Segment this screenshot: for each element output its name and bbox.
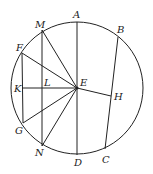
- segment-EN: [42, 88, 77, 146]
- geometry-diagram: A B C D E F G H K L M N: [0, 0, 153, 174]
- label-N: N: [34, 147, 45, 158]
- label-C: C: [102, 154, 110, 165]
- segment-EH: [77, 88, 111, 96]
- label-E: E: [79, 77, 88, 88]
- label-M: M: [34, 19, 46, 30]
- label-L: L: [43, 77, 51, 88]
- label-D: D: [73, 157, 82, 168]
- label-K: K: [13, 83, 22, 94]
- label-B: B: [116, 24, 124, 35]
- segment-EG: [23, 88, 77, 123]
- label-F: F: [15, 42, 24, 53]
- label-H: H: [113, 91, 123, 102]
- center-point: [75, 86, 78, 89]
- label-A: A: [72, 9, 80, 20]
- label-G: G: [15, 125, 23, 136]
